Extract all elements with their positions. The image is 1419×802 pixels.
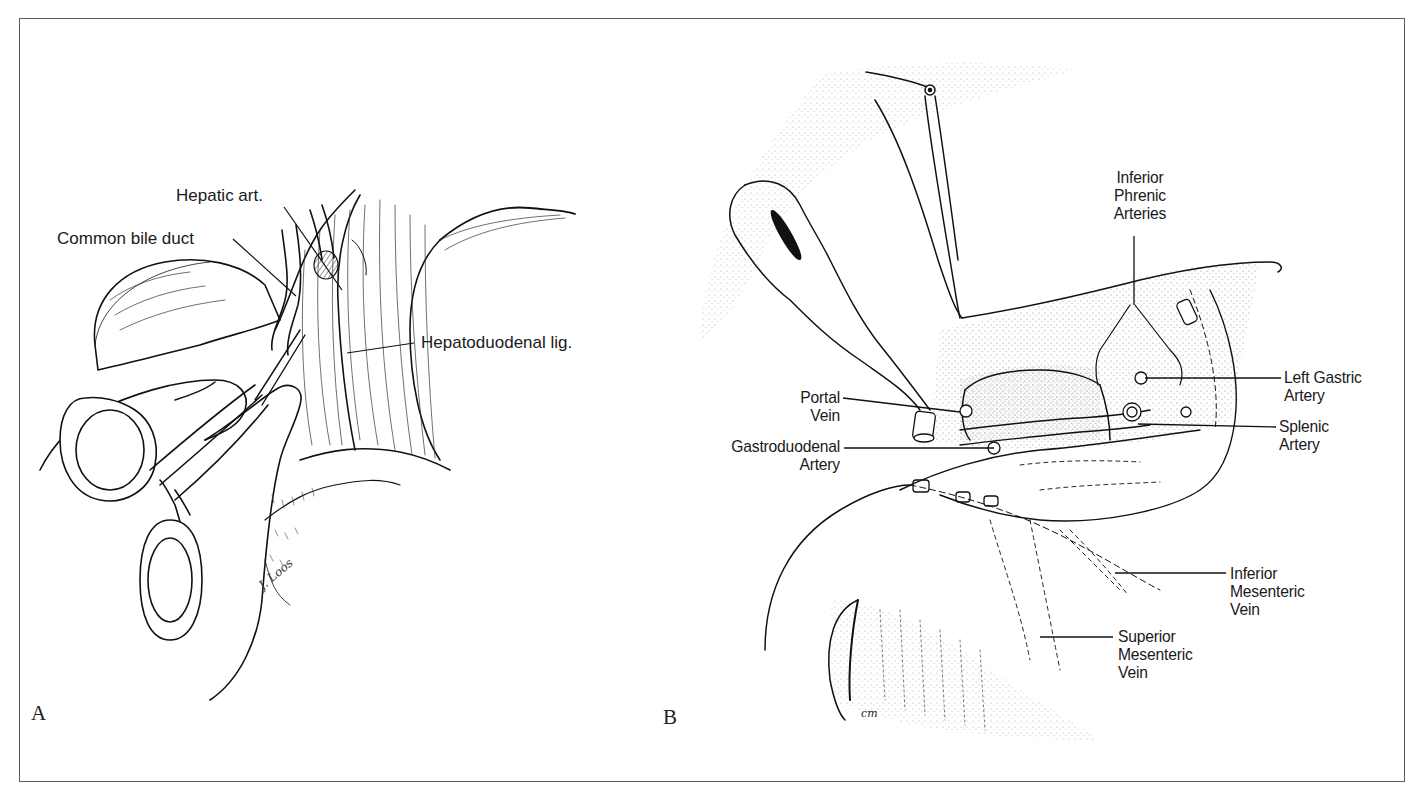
label-left-gastric-artery: Left Gastric Artery: [1284, 369, 1362, 405]
label-gastroduodenal-artery: Gastroduodenal Artery: [693, 438, 840, 474]
signature-b: cm: [861, 707, 878, 720]
panel-letter-b: B: [663, 705, 677, 730]
label-inferior-mesenteric-vein: Inferior Mesenteric Vein: [1230, 565, 1305, 619]
label-inferior-phrenic-arteries: Inferior Phrenic Arteries: [1103, 169, 1177, 223]
panel-a-drawing: [40, 190, 575, 700]
anatomical-illustration: J. Loos: [0, 0, 1419, 802]
label-hepatoduodenal-lig: Hepatoduodenal lig.: [421, 334, 572, 352]
leader-hepatoduodenal-lig: [347, 343, 414, 353]
label-splenic-artery: Splenic Artery: [1279, 418, 1329, 454]
label-superior-mesenteric-vein: Superior Mesenteric Vein: [1118, 628, 1193, 682]
label-common-bile-duct: Common bile duct: [57, 230, 194, 248]
label-hepatic-art: Hepatic art.: [176, 187, 263, 205]
panel-letter-a: A: [31, 701, 46, 726]
label-portal-vein: Portal Vein: [739, 389, 840, 425]
